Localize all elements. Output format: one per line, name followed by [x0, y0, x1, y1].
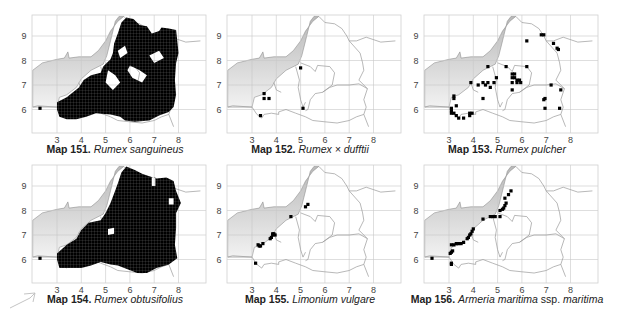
record-dot [263, 92, 266, 95]
admin-border [301, 213, 335, 261]
map-panel-153: 3456789876Map 153. Rumex pulcher [402, 0, 612, 156]
admin-border [301, 63, 335, 111]
y-tick-label: 7 [21, 230, 26, 240]
map-panel-152: 3456789876Map 152. Rumex × dufftii [205, 0, 415, 156]
admin-border [498, 63, 532, 111]
record-dot [492, 81, 495, 84]
record-dot [494, 215, 497, 218]
record-dot [489, 86, 492, 89]
rank-qualifier: ssp. [538, 293, 563, 305]
record-dot [486, 81, 489, 84]
record-dot [274, 233, 277, 236]
record-dot [513, 72, 516, 75]
map-caption: Map 155. Limonium vulgare [205, 293, 415, 305]
species-name: Limonium vulgare [292, 293, 375, 305]
distribution-map: 3456789876 [205, 150, 415, 290]
y-tick-label: 9 [413, 181, 418, 191]
y-tick-label: 6 [21, 255, 26, 265]
record-dot [511, 88, 514, 91]
sea-area [425, 16, 516, 107]
y-tick-label: 9 [413, 31, 418, 41]
admin-border [516, 166, 593, 192]
distribution-map: 3456789876 [205, 0, 415, 140]
record-dot [472, 227, 475, 230]
record-dot [457, 117, 460, 120]
distribution-map: 3456789876 [402, 150, 612, 290]
sea-area [425, 166, 516, 257]
y-tick-label: 6 [413, 105, 418, 115]
record-dot [299, 66, 302, 69]
map-panel-151: 3456789876Map 151. Rumex sanguineus [10, 0, 220, 156]
record-dot [306, 203, 309, 206]
record-dot [468, 114, 471, 117]
y-tick-label: 8 [413, 206, 418, 216]
map-panel-154: 3456789876Map 154. Rumex obtusifolius [10, 150, 220, 306]
record-dot [462, 117, 465, 120]
y-tick-label: 6 [216, 255, 221, 265]
record-dot [543, 97, 546, 100]
record-dot [430, 257, 433, 260]
record-dot [507, 193, 510, 196]
record-dot [519, 81, 522, 84]
record-dot [259, 114, 262, 117]
record-dot [557, 48, 560, 51]
record-dot [261, 242, 264, 245]
y-tick-label: 7 [413, 80, 418, 90]
y-tick-label: 8 [413, 56, 418, 66]
record-dot [481, 97, 484, 100]
y-tick-label: 7 [413, 230, 418, 240]
record-dot [267, 97, 270, 100]
map-panel-156: 3456789876Map 156. Armeria maritima ssp.… [402, 150, 612, 306]
y-tick-label: 9 [216, 31, 221, 41]
y-tick-label: 6 [413, 255, 418, 265]
record-dot [289, 215, 292, 218]
y-tick-label: 7 [21, 80, 26, 90]
record-dot [552, 42, 555, 45]
map-number: Map 155. [245, 293, 289, 305]
y-tick-label: 9 [21, 31, 26, 41]
record-dot [455, 104, 458, 107]
distribution-map: 3456789876 [402, 0, 612, 140]
record-dot [525, 65, 528, 68]
y-tick-label: 7 [216, 230, 221, 240]
admin-border [319, 166, 396, 192]
record-dot [495, 76, 498, 79]
arrow-sketch-icon [8, 290, 42, 313]
sea-area [228, 166, 319, 257]
record-dot [558, 107, 561, 110]
record-dot [503, 197, 506, 200]
admin-border [516, 16, 593, 42]
y-tick-label: 8 [21, 206, 26, 216]
infraspecific-name: maritima [563, 293, 603, 305]
y-tick-label: 9 [216, 181, 221, 191]
record-dot [505, 65, 508, 68]
record-dot [559, 88, 562, 91]
record-dot [263, 97, 266, 100]
map-caption: Map 156. Armeria maritima ssp. maritima [402, 293, 612, 305]
record-dot [481, 218, 484, 221]
record-dot [511, 81, 514, 84]
y-tick-label: 8 [216, 206, 221, 216]
map-panel-155: 3456789876Map 155. Limonium vulgare [205, 150, 415, 306]
record-dot [451, 249, 454, 252]
distribution-map: 3456789876 [10, 0, 220, 140]
record-dot [452, 97, 455, 100]
y-tick-label: 8 [216, 56, 221, 66]
distribution-map: 3456789876 [10, 150, 220, 290]
admin-border [498, 213, 532, 261]
record-dot [450, 263, 453, 266]
record-dot [543, 107, 546, 110]
admin-border [319, 16, 396, 42]
record-dot [542, 33, 545, 36]
y-tick-label: 6 [21, 105, 26, 115]
record-dot [301, 107, 304, 110]
record-dot [462, 241, 465, 244]
record-dot [477, 83, 480, 86]
record-dot [515, 81, 518, 84]
species-name: Armeria maritima [458, 293, 538, 305]
record-dot [550, 83, 553, 86]
map-number: Map 156. [411, 293, 455, 305]
y-tick-label: 7 [216, 80, 221, 90]
y-tick-label: 9 [21, 181, 26, 191]
record-dot [498, 215, 501, 218]
